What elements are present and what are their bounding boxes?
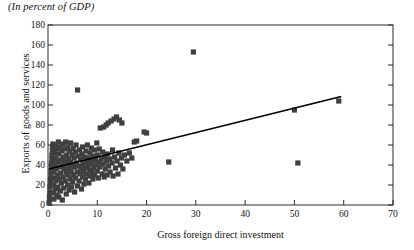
data-point	[100, 149, 105, 154]
y-tick-label: 0	[40, 200, 45, 210]
data-point	[127, 150, 132, 155]
data-point	[68, 140, 73, 145]
data-point	[124, 158, 129, 163]
data-point	[191, 49, 196, 54]
data-point	[129, 155, 134, 160]
y-tick-label: 180	[31, 20, 45, 30]
data-point	[110, 173, 115, 178]
data-point	[73, 142, 78, 147]
y-tick-label: 100	[31, 100, 45, 110]
y-tick-label: 20	[36, 180, 46, 190]
chart-figure: (In percent of GDP) Exports of goods and…	[0, 0, 414, 250]
data-point	[110, 147, 115, 152]
y-tick-label: 60	[36, 140, 46, 150]
data-point	[60, 197, 65, 202]
data-point	[122, 152, 127, 157]
data-point	[144, 130, 149, 135]
x-tick-label: 30	[191, 209, 201, 219]
data-point	[92, 147, 97, 152]
y-tick-label: 160	[31, 40, 45, 50]
y-tick-label: 80	[36, 120, 46, 130]
data-point-group	[46, 49, 341, 205]
data-point	[295, 160, 300, 165]
data-point	[115, 171, 120, 176]
x-tick-label: 10	[93, 209, 103, 219]
data-point	[79, 186, 84, 191]
x-tick-label: 60	[339, 209, 349, 219]
data-point	[94, 140, 99, 145]
data-point	[166, 159, 171, 164]
data-point	[75, 87, 80, 92]
data-point	[109, 160, 114, 165]
data-point	[56, 139, 61, 144]
data-point	[113, 165, 118, 170]
x-axis-ticks	[48, 200, 393, 205]
x-tick-label: 50	[290, 209, 300, 219]
x-tick-label: 40	[240, 209, 250, 219]
data-point	[336, 98, 341, 103]
regression-line	[49, 97, 341, 170]
x-tick-label: 20	[142, 209, 152, 219]
data-point	[81, 181, 86, 186]
data-point	[63, 139, 68, 144]
y-tick-label: 140	[31, 60, 45, 70]
y-tick-label: 120	[31, 80, 45, 90]
x-tick-label: 70	[388, 209, 398, 219]
data-point	[120, 166, 125, 171]
data-point	[72, 189, 77, 194]
x-tick-label: 0	[46, 209, 51, 219]
trend-line	[49, 97, 341, 170]
scatter-plot	[0, 0, 414, 250]
data-point	[119, 120, 124, 125]
data-point	[134, 138, 139, 143]
data-point	[69, 184, 74, 189]
y-tick-label: 40	[36, 160, 46, 170]
